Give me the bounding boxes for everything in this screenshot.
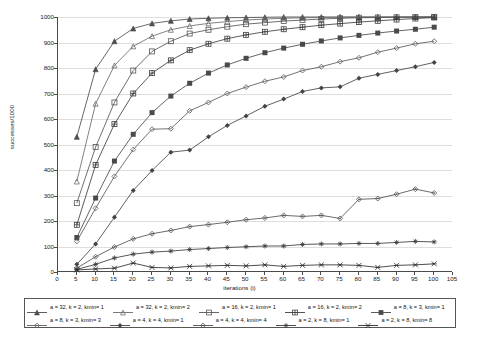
data-point-diamond-filled <box>338 84 343 89</box>
y-tick-mark <box>54 17 57 18</box>
x-tick-mark <box>76 272 77 275</box>
data-point-asterisk <box>375 241 380 246</box>
data-point-square-filled <box>281 46 286 51</box>
data-point-cross <box>187 264 192 269</box>
y-tick-mark <box>54 119 57 120</box>
y-tick-label: 400 <box>44 167 54 173</box>
data-point-asterisk <box>432 239 437 244</box>
legend-item[interactable]: a = 8, k = 3, kmin= 1 <box>371 303 445 312</box>
data-point-cross <box>93 266 98 271</box>
legend-item[interactable]: a = 16, k = 2, kmin= 1 <box>199 303 276 312</box>
data-point-diamond-filled <box>319 85 324 90</box>
x-tick-mark <box>377 272 378 275</box>
data-point-triangle-filled <box>74 134 79 139</box>
data-point-triangle-filled <box>131 26 136 31</box>
data-point-cross <box>356 263 361 268</box>
data-point-asterisk <box>338 241 343 246</box>
data-point-asterisk <box>206 246 211 251</box>
data-point-square-filled <box>300 42 305 47</box>
series-1 <box>74 15 436 184</box>
legend-swatch <box>371 303 391 312</box>
data-point-cross <box>319 262 324 267</box>
data-point-asterisk <box>262 243 267 248</box>
legend-swatch <box>358 316 378 325</box>
legend-row: a = 32, k = 2, kmin= 1a = 32, k = 2, kmi… <box>27 301 453 314</box>
legend-item[interactable]: a = 8, k = 3, kmin= 3 <box>27 316 101 325</box>
x-tick-label: 25 <box>148 276 155 282</box>
data-point-cross <box>131 261 136 266</box>
x-tick-mark <box>339 272 340 275</box>
data-point-asterisk <box>281 243 286 248</box>
data-point-diamond-small <box>131 236 136 241</box>
data-point-diamond-filled <box>244 113 249 118</box>
x-tick-mark <box>207 272 208 275</box>
data-point-square-filled <box>432 25 437 30</box>
data-point-triangle-filled <box>112 39 117 44</box>
x-tick-label: 40 <box>204 276 211 282</box>
x-tick-label: 15 <box>110 276 117 282</box>
data-point-cross <box>244 263 249 268</box>
data-point-asterisk <box>244 244 249 249</box>
data-point-asterisk <box>300 242 305 247</box>
x-tick-mark <box>320 272 321 275</box>
data-point-square-filled <box>112 159 117 164</box>
data-point-square-filled <box>206 71 211 76</box>
x-tick-label: 45 <box>223 276 230 282</box>
series-9 <box>74 261 436 273</box>
x-tick-mark <box>283 272 284 275</box>
data-point-square-filled <box>338 35 343 40</box>
y-tick-mark <box>54 221 57 222</box>
x-tick-mark <box>414 272 415 275</box>
legend-swatch <box>110 316 130 325</box>
series-line <box>77 27 434 237</box>
data-point-cross <box>262 262 267 267</box>
data-point-asterisk <box>225 245 230 250</box>
data-point-square-crossed <box>244 32 249 37</box>
x-tick-label: 65 <box>298 276 305 282</box>
legend-item[interactable]: a = 32, k = 2, kmin= 2 <box>113 303 190 312</box>
data-point-square-crossed <box>112 122 117 127</box>
series-line <box>77 17 434 203</box>
data-series-layer <box>58 17 453 272</box>
x-tick-label: 105 <box>447 276 457 282</box>
legend-swatch <box>285 303 305 312</box>
data-point-square-crossed <box>187 48 192 53</box>
legend-item[interactable]: a = 32, k = 2, kmin= 1 <box>27 303 104 312</box>
x-tick-label: 60 <box>279 276 286 282</box>
y-tick-label: 900 <box>44 39 54 45</box>
data-point-diamond-small <box>112 245 117 250</box>
legend-item[interactable]: a = 16, k = 2, kmin= 2 <box>285 303 362 312</box>
data-point-diamond-filled <box>375 72 380 77</box>
legend-label: a = 2, k = 8, kmin= 8 <box>381 318 432 324</box>
data-point-asterisk <box>283 323 288 328</box>
x-tick-mark <box>358 272 359 275</box>
y-tick-mark <box>54 247 57 248</box>
legend-item[interactable]: a = 2, k = 8, kmin= 8 <box>358 316 432 325</box>
legend-label: a = 8, k = 3, kmin= 1 <box>394 305 445 311</box>
data-point-square-crossed <box>281 27 286 32</box>
legend-swatch <box>113 303 133 312</box>
y-tick-mark <box>54 94 57 95</box>
y-tick-label: 600 <box>44 116 54 122</box>
legend-label: a = 32, k = 2, kmin= 2 <box>136 305 190 311</box>
x-tick-label: 0 <box>55 276 58 282</box>
y-tick-label: 700 <box>44 90 54 96</box>
data-point-asterisk <box>150 250 155 255</box>
legend-item[interactable]: a = 4, k = 4, kmin= 1 <box>110 316 184 325</box>
legend-item[interactable]: a = 4, k = 4, kmin= 4 <box>193 316 267 325</box>
x-tick-label: 10 <box>91 276 98 282</box>
data-point-diamond-filled <box>413 64 418 69</box>
y-tick-mark <box>54 145 57 146</box>
legend-item[interactable]: a = 2, k = 8, kmin= 1 <box>276 316 350 325</box>
data-point-cross <box>300 263 305 268</box>
x-tick-mark <box>151 272 152 275</box>
data-point-diamond-filled <box>281 97 286 102</box>
series-2 <box>74 15 436 206</box>
data-point-square-open <box>74 201 79 206</box>
data-point-square-filled <box>319 38 324 43</box>
data-point-square-filled <box>375 31 380 36</box>
legend-swatch <box>276 316 296 325</box>
x-tick-mark <box>264 272 265 275</box>
data-point-diamond-small <box>93 254 98 259</box>
data-point-square-filled <box>131 132 136 137</box>
